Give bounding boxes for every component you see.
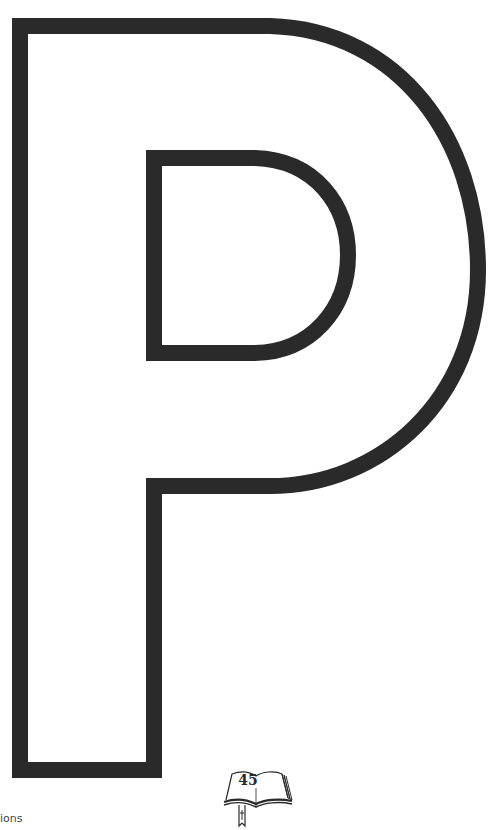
letter-p-inner-counter — [154, 158, 348, 353]
footer-cut-off-text: ions — [0, 812, 23, 825]
letter-p-outline — [0, 0, 502, 830]
letter-p-outer-contour — [20, 26, 478, 770]
page-number: 45 — [228, 772, 268, 788]
